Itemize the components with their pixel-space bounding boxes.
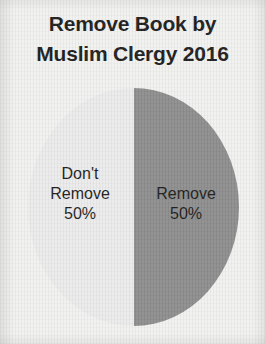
title-line-2: Muslim Clergy 2016 xyxy=(0,39,265,69)
page-title: Remove Book by Muslim Clergy 2016 xyxy=(0,9,265,69)
title-line-1: Remove Book by xyxy=(0,9,265,39)
label-dont-remove-line-2: Remove xyxy=(30,184,130,204)
chart-page: Remove Book by Muslim Clergy 2016 Don't … xyxy=(0,0,265,344)
label-dont-remove-line-1: Don't xyxy=(30,164,130,184)
pie-slice-label-remove: Remove 50% xyxy=(138,184,234,224)
pie-slice-label-dont-remove: Don't Remove 50% xyxy=(30,164,130,224)
label-remove-line-1: Remove xyxy=(138,184,234,204)
label-remove-value: 50% xyxy=(138,204,234,224)
label-dont-remove-value: 50% xyxy=(30,204,130,224)
